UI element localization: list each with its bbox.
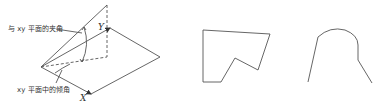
diagram-canvas: 与 xy 平面的夹角 xy 平面中的倾角 Y X — [0, 0, 377, 105]
x-axis-label: X — [79, 93, 87, 103]
open-curve — [308, 29, 372, 83]
inclined-line — [41, 5, 107, 67]
y-axis-line — [41, 28, 110, 67]
angle-arc-vertical — [82, 27, 87, 62]
angle-arc-plane — [55, 64, 70, 73]
plane-edge-top — [110, 28, 160, 57]
y-axis-label: Y — [98, 22, 105, 32]
plane-diagram — [41, 5, 160, 94]
label-angle-with-plane: 与 xy 平面的夹角 — [8, 24, 63, 33]
label-inclination-in-plane: xy 平面中的倾角 — [17, 85, 70, 94]
plane-projection-line — [41, 57, 107, 67]
plane-edge-right — [91, 57, 160, 94]
concave-polygon — [203, 30, 270, 82]
